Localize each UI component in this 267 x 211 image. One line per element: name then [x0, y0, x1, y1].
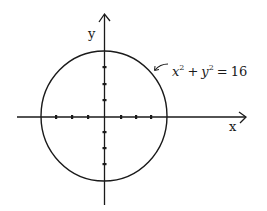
y-axis: y: [87, 14, 110, 205]
x-axis-label: x: [229, 119, 237, 134]
eq-x-exponent: 2: [179, 63, 184, 72]
eq-plus: +: [187, 64, 198, 79]
diagram-canvas: x y x2+y2=16: [0, 0, 267, 211]
equation-label: x2+y2=16: [172, 63, 247, 79]
eq-equals: =: [217, 64, 228, 79]
equation-pointer-arrow-icon: [155, 64, 168, 70]
x-axis: x: [17, 112, 246, 134]
eq-y-exponent: 2: [209, 63, 214, 72]
eq-rhs: 16: [231, 64, 248, 79]
y-axis-label: y: [87, 26, 96, 41]
